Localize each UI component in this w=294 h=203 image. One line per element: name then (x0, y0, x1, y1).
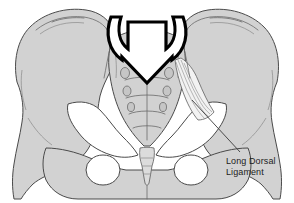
sacral-foramen-right-4 (160, 103, 167, 112)
sacral-foramen-left-4 (128, 103, 135, 112)
sacral-foramen-left-3 (123, 86, 131, 96)
label-line-2: Ligament (226, 167, 292, 178)
right-obturator-foramen (174, 155, 208, 185)
sacral-foramen-right-3 (163, 86, 171, 96)
sacral-foramen-left-2 (121, 68, 130, 79)
pelvis-anatomy-figure: Long Dorsal Ligament (0, 0, 294, 203)
label-line-1: Long Dorsal (226, 156, 292, 167)
long-dorsal-ligament-label: Long Dorsal Ligament (226, 156, 292, 178)
left-obturator-foramen (86, 155, 120, 185)
sacral-foramen-right-2 (165, 68, 174, 79)
